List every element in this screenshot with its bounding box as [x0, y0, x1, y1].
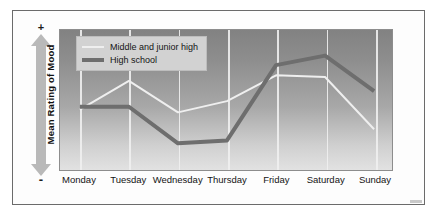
x-axis: MondayTuesdayWednesdayThursdayFridaySatu…: [59, 174, 393, 190]
corner-mark: [410, 200, 422, 203]
x-tick-friday: Friday: [263, 174, 289, 185]
y-axis-negative-sign: -: [33, 175, 49, 185]
x-tick-saturday: Saturday: [307, 174, 345, 185]
double-headed-vertical-arrow-icon: Mean Rating of Mood: [31, 34, 51, 176]
legend-label-high-school: High school: [110, 55, 157, 65]
chart-figure: + Mean Rating of Mood - Middle and junio…: [12, 10, 425, 205]
chart-legend: Middle and junior high High school: [76, 36, 207, 71]
y-axis-label: Mean Rating of Mood: [45, 30, 56, 160]
line-series-middle-and-junior-high: [80, 75, 374, 129]
legend-item: Middle and junior high: [82, 40, 198, 53]
x-tick-monday: Monday: [62, 174, 96, 185]
legend-label-middle-junior-high: Middle and junior high: [110, 42, 198, 52]
x-tick-tuesday: Tuesday: [110, 174, 146, 185]
x-tick-sunday: Sunday: [359, 174, 391, 185]
x-tick-wednesday: Wednesday: [153, 174, 203, 185]
legend-swatch-high-school: [82, 58, 104, 62]
legend-item: High school: [82, 53, 198, 66]
plot-area: Middle and junior high High school: [59, 29, 393, 171]
legend-swatch-middle-junior-high: [82, 46, 104, 48]
x-tick-thursday: Thursday: [207, 174, 247, 185]
